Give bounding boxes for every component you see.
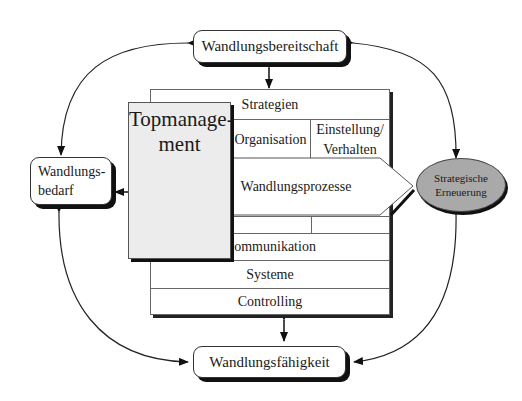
cell-label-line1: Einstellung/ bbox=[316, 120, 384, 140]
row-controlling: Controlling bbox=[151, 288, 389, 314]
node-strategische-erneuerung: Strategische Erneuerung bbox=[416, 158, 506, 212]
row-systeme: Systeme bbox=[151, 260, 389, 288]
node-label-line1: Topmanage- bbox=[129, 107, 230, 132]
cell-label-line2: Verhalten bbox=[323, 140, 377, 160]
row-divider bbox=[311, 217, 312, 233]
row-label: Strategien bbox=[242, 97, 299, 113]
node-label: Wandlungsbereitschaft bbox=[201, 38, 338, 55]
node-wandlungsbereitschaft: Wandlungsbereitschaft bbox=[193, 30, 347, 63]
cell-einstellung-verhalten: Einstellung/ Verhalten bbox=[311, 120, 389, 159]
node-label-line1: Strategische bbox=[434, 171, 488, 185]
node-label-line1: Wandlungs- bbox=[38, 162, 105, 181]
node-wandlungsbedarf: Wandlungs- bedarf bbox=[30, 157, 112, 205]
node-label: Wandlungsfähigkeit bbox=[209, 354, 329, 371]
node-label-line2: Erneuerung bbox=[435, 185, 486, 199]
node-label-line2: ment bbox=[129, 132, 230, 157]
row-label: Kommunikation bbox=[224, 239, 316, 255]
node-label-line2: bedarf bbox=[38, 181, 105, 200]
node-wandlungsfaehigkeit: Wandlungsfähigkeit bbox=[193, 346, 346, 378]
node-topmanagement: Topmanage- ment bbox=[128, 102, 231, 259]
row-label: Systeme bbox=[246, 267, 293, 283]
row-label: Controlling bbox=[238, 294, 303, 310]
